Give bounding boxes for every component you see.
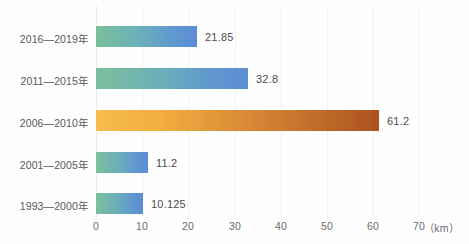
axis-unit-label: （km）	[424, 220, 459, 235]
xtick-30: 30	[229, 220, 241, 232]
category-label-2: 2006—2010年	[0, 115, 88, 130]
bar-4[interactable]	[96, 193, 143, 214]
bar-value-3: 11.2	[156, 157, 177, 169]
category-label-1: 2011—2015年	[0, 73, 88, 88]
horizontal-bar-chart: 2016—2019年 21.85 2011—2015年 32.8 2006—20…	[0, 0, 469, 244]
bar-value-2: 61.2	[387, 115, 409, 127]
xtick-10: 10	[136, 220, 148, 232]
xtick-40: 40	[275, 220, 287, 232]
xtick-20: 20	[182, 220, 194, 232]
xtick-0: 0	[93, 220, 99, 232]
bar-2[interactable]	[96, 110, 379, 131]
category-label-3: 2001—2005年	[0, 157, 88, 172]
category-label-0: 2016—2019年	[0, 31, 88, 46]
xtick-50: 50	[321, 220, 333, 232]
xtick-60: 60	[367, 220, 379, 232]
category-label-4: 1993—2000年	[0, 198, 88, 213]
bar-value-0: 21.85	[205, 31, 234, 43]
gridline-70	[419, 6, 420, 218]
bar-value-4: 10.125	[151, 198, 186, 210]
bar-0[interactable]	[96, 26, 197, 47]
bar-value-1: 32.8	[256, 73, 278, 85]
cropped-caption	[22, 236, 227, 241]
bar-1[interactable]	[96, 68, 248, 89]
bar-3[interactable]	[96, 152, 148, 173]
x-axis	[96, 218, 423, 219]
